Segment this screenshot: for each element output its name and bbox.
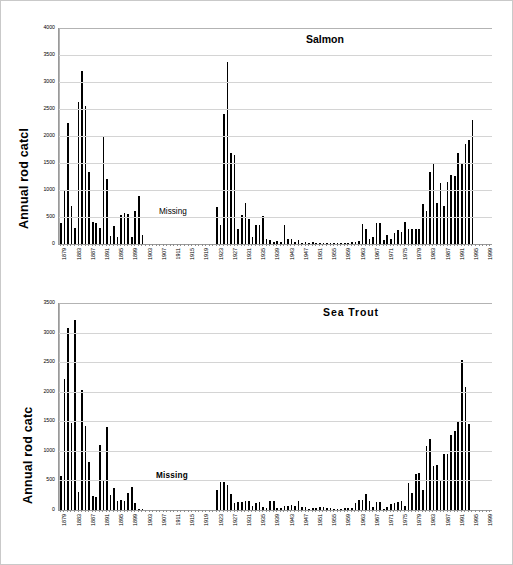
x-tick-mark xyxy=(298,244,299,246)
bar xyxy=(71,423,73,510)
x-tick-mark xyxy=(315,510,316,512)
bar xyxy=(78,102,80,244)
x-tick-mark xyxy=(376,510,377,512)
x-tick-label: 1943 xyxy=(290,514,296,526)
x-tick-label: 1907 xyxy=(162,248,168,260)
x-tick-mark xyxy=(354,510,355,512)
x-tick-mark xyxy=(322,244,323,246)
bar xyxy=(120,215,122,244)
x-tick-mark xyxy=(67,510,68,512)
bar xyxy=(262,216,264,244)
x-tick-mark xyxy=(479,510,480,512)
x-tick-mark xyxy=(180,244,181,246)
x-tick-mark xyxy=(60,510,61,512)
bar xyxy=(241,215,243,244)
x-tick-mark xyxy=(262,510,263,512)
bar xyxy=(415,229,417,244)
x-tick-label: 1935 xyxy=(261,248,267,260)
x-tick-label: 1971 xyxy=(389,248,395,260)
x-tick-mark xyxy=(305,244,306,246)
x-tick-mark xyxy=(447,244,448,246)
x-tick-mark xyxy=(340,510,341,512)
bar xyxy=(78,492,80,510)
x-tick-mark xyxy=(184,510,185,512)
x-tick-label: 1919 xyxy=(204,514,210,526)
x-tick-label: 1887 xyxy=(91,248,97,260)
x-tick-label: 1939 xyxy=(275,514,281,526)
x-tick-mark xyxy=(422,510,423,512)
x-tick-mark xyxy=(156,244,157,246)
x-tick-mark xyxy=(415,510,416,512)
x-tick-mark xyxy=(290,244,291,246)
x-tick-mark xyxy=(280,510,281,512)
x-tick-mark xyxy=(457,244,458,246)
bar xyxy=(365,229,367,244)
x-tick-label: 1931 xyxy=(247,514,253,526)
x-tick-mark xyxy=(425,244,426,246)
x-tick-mark xyxy=(244,510,245,512)
x-tick-label: 1879 xyxy=(62,248,68,260)
x-tick-mark xyxy=(351,510,352,512)
bar xyxy=(426,446,428,510)
x-tick-mark xyxy=(411,510,412,512)
bar xyxy=(259,225,261,244)
x-tick-mark xyxy=(134,244,135,246)
x-tick-label: 1935 xyxy=(261,514,267,526)
x-tick-mark xyxy=(315,244,316,246)
x-tick-mark xyxy=(241,244,242,246)
x-tick-mark xyxy=(386,510,387,512)
x-tick-mark xyxy=(482,244,483,246)
x-tick-label: 1931 xyxy=(247,248,253,260)
x-tick-mark xyxy=(400,244,401,246)
x-tick-mark xyxy=(251,510,252,512)
y-tick-label: 2500 xyxy=(43,360,55,365)
y-tick-label: 0 xyxy=(52,507,55,512)
x-tick-mark xyxy=(443,244,444,246)
x-tick-mark xyxy=(340,244,341,246)
x-tick-mark xyxy=(361,510,362,512)
y-axis-title-salmon: Annual rod catcl xyxy=(17,128,31,229)
bar xyxy=(124,501,126,510)
x-tick-mark xyxy=(404,244,405,246)
bar xyxy=(454,431,456,510)
x-tick-label: 1887 xyxy=(91,514,97,526)
x-tick-mark xyxy=(344,510,345,512)
x-tick-mark xyxy=(464,510,465,512)
x-tick-label: 1903 xyxy=(148,248,154,260)
y-tick-label: 0 xyxy=(52,241,55,246)
y-tick-label: 1000 xyxy=(43,187,55,192)
x-tick-mark xyxy=(447,510,448,512)
x-tick-mark xyxy=(475,510,476,512)
x-tick-mark xyxy=(138,510,139,512)
x-tick-mark xyxy=(450,510,451,512)
x-tick-mark xyxy=(383,510,384,512)
x-tick-mark xyxy=(99,244,100,246)
x-tick-mark xyxy=(287,510,288,512)
x-tick-mark xyxy=(216,244,217,246)
x-tick-mark xyxy=(319,244,320,246)
x-tick-mark xyxy=(92,244,93,246)
y-tick-label: 500 xyxy=(46,214,55,219)
x-tick-label: 1959 xyxy=(346,514,352,526)
x-tick-label: 1895 xyxy=(119,248,125,260)
bar xyxy=(411,229,413,244)
x-tick-mark xyxy=(195,510,196,512)
x-tick-mark xyxy=(88,510,89,512)
x-tick-mark xyxy=(131,510,132,512)
x-tick-mark xyxy=(273,510,274,512)
bar xyxy=(230,153,232,244)
x-tick-label: 1975 xyxy=(403,514,409,526)
x-tick-mark xyxy=(106,510,107,512)
x-tick-mark xyxy=(330,510,331,512)
bar xyxy=(426,211,428,244)
x-tick-mark xyxy=(180,510,181,512)
y-tick-label: 2000 xyxy=(43,389,55,394)
x-tick-label: 1995 xyxy=(474,248,480,260)
x-tick-mark xyxy=(202,510,203,512)
x-tick-mark xyxy=(454,510,455,512)
x-tick-mark xyxy=(70,510,71,512)
x-tick-mark xyxy=(351,244,352,246)
x-tick-mark xyxy=(400,510,401,512)
bar xyxy=(379,502,381,510)
bar xyxy=(369,501,371,510)
